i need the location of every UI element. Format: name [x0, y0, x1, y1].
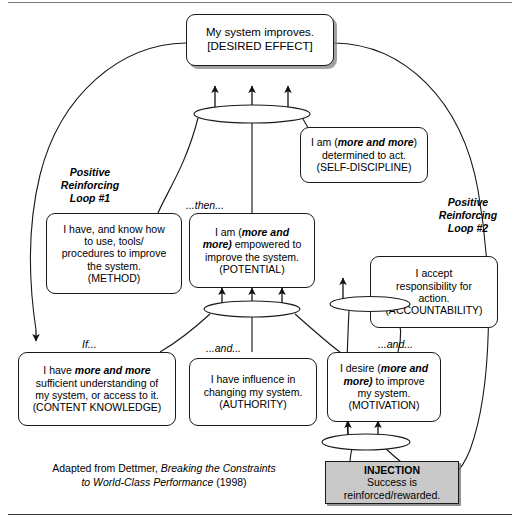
connector-then-label: ...then...: [186, 199, 224, 211]
potential-text: I am (more and more) empowered to improv…: [199, 226, 306, 276]
method-text: I have, and know how to use, tools/ proc…: [58, 223, 170, 285]
source-credit: Adapted from Dettmer, Breaking the Const…: [24, 462, 304, 489]
authority-node[interactable]: I have influence in changing my system. …: [189, 358, 317, 426]
injection-text: INJECTION Success is reinforced/rewarded…: [344, 464, 440, 502]
self-discipline-text: I am (more and more) determined to act. …: [307, 136, 421, 173]
top-rule: [8, 2, 512, 3]
credit-line-1: Adapted from Dettmer, Breaking the Const…: [52, 462, 276, 474]
authority-text: I have influence in changing my system. …: [200, 373, 307, 410]
desired-effect-text: My system improves. [DESIRED EFFECT]: [202, 26, 318, 53]
content-knowledge-text: I have more and more sufficient understa…: [29, 364, 166, 414]
desired-effect-node[interactable]: My system improves. [DESIRED EFFECT]: [186, 14, 334, 66]
connector-and-middle-label: ...and...: [206, 342, 241, 354]
method-node[interactable]: I have, and know how to use, tools/ proc…: [46, 213, 182, 294]
content-knowledge-node[interactable]: I have more and more sufficient understa…: [18, 352, 176, 426]
credit-line-2: to World-Class Performance (1998): [81, 476, 246, 488]
connector-if-label: If...: [82, 338, 97, 350]
diagram-canvas: My system improves. [DESIRED EFFECT] I a…: [0, 0, 520, 529]
connector-and-right-label: ...and...: [378, 338, 413, 350]
self-discipline-node[interactable]: I am (more and more) determined to act. …: [300, 127, 428, 183]
bottom-rule: [8, 514, 512, 515]
accountability-text: I accept responsibility for action. (ACC…: [381, 267, 486, 317]
loop-1-label: Positive Reinforcing Loop #1: [44, 166, 136, 205]
motivation-text: I desire (more and more) to improve my s…: [336, 362, 432, 412]
potential-node[interactable]: I am (more and more) empowered to improv…: [189, 213, 315, 288]
motivation-node[interactable]: I desire (more and more) to improve my s…: [327, 352, 441, 422]
injection-node[interactable]: INJECTION Success is reinforced/rewarded…: [325, 461, 459, 504]
injection-heading: INJECTION: [364, 464, 420, 476]
loop-2-label: Positive Reinforcing Loop #2: [422, 196, 514, 235]
accountability-node[interactable]: I accept responsibility for action. (ACC…: [370, 256, 498, 328]
